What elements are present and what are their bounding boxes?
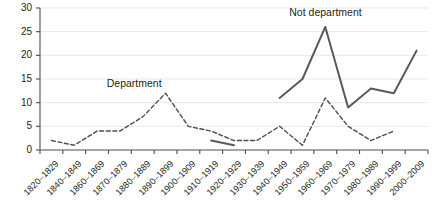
y-axis-tick-label: 0 xyxy=(8,145,32,155)
series-line-not-department xyxy=(211,141,234,146)
y-axis-tick-label: 20 xyxy=(8,50,32,60)
series-label-not-department: Not department xyxy=(289,6,361,18)
series-line-department xyxy=(51,93,393,145)
y-axis-tick-label: 25 xyxy=(8,27,32,37)
y-axis-tick-label: 5 xyxy=(8,121,32,131)
y-axis-tick-label: 10 xyxy=(8,98,32,108)
series-label-department: Department xyxy=(107,77,162,89)
series-line-not-department xyxy=(280,27,417,107)
line-chart: 051015202530 1820–18291840–18491860–1869… xyxy=(0,0,434,213)
y-axis-tick-label: 30 xyxy=(8,3,32,13)
y-axis-tick-label: 15 xyxy=(8,74,32,84)
